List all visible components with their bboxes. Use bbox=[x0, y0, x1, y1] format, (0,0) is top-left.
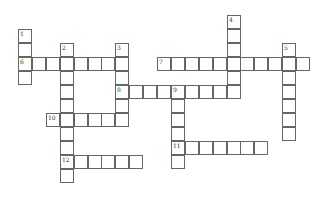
crossword-cell[interactable] bbox=[171, 57, 185, 71]
clue-number: 11 bbox=[173, 142, 181, 149]
crossword-cell[interactable] bbox=[213, 57, 227, 71]
crossword-cell[interactable] bbox=[74, 57, 88, 71]
crossword-cell[interactable] bbox=[60, 169, 74, 183]
clue-number: 2 bbox=[62, 44, 66, 51]
crossword-cell[interactable]: 5 bbox=[282, 43, 296, 57]
crossword-cell[interactable] bbox=[171, 127, 185, 141]
crossword-cell[interactable] bbox=[129, 155, 143, 169]
crossword-cell[interactable] bbox=[115, 155, 129, 169]
crossword-cell[interactable] bbox=[101, 113, 115, 127]
crossword-cell[interactable]: 4 bbox=[227, 15, 241, 29]
clue-number: 8 bbox=[117, 86, 121, 93]
crossword-cell[interactable]: 1 bbox=[18, 29, 32, 43]
clue-number: 7 bbox=[159, 58, 163, 65]
crossword-cell[interactable] bbox=[115, 71, 129, 85]
crossword-cell[interactable] bbox=[296, 57, 310, 71]
crossword-cell[interactable] bbox=[74, 113, 88, 127]
crossword-cell[interactable] bbox=[227, 71, 241, 85]
crossword-cell[interactable]: 7 bbox=[157, 57, 171, 71]
crossword-cell[interactable] bbox=[268, 57, 282, 71]
clue-number: 5 bbox=[284, 44, 288, 51]
crossword-cell[interactable] bbox=[46, 57, 60, 71]
crossword-grid: 162123845791110 bbox=[0, 0, 326, 201]
clue-number: 3 bbox=[117, 44, 121, 51]
crossword-cell[interactable] bbox=[60, 99, 74, 113]
crossword-cell[interactable]: 11 bbox=[171, 141, 185, 155]
clue-number: 12 bbox=[62, 156, 70, 163]
crossword-cell[interactable] bbox=[101, 155, 115, 169]
crossword-cell[interactable]: 2 bbox=[60, 43, 74, 57]
clue-number: 1 bbox=[20, 30, 24, 37]
crossword-cell[interactable] bbox=[185, 141, 199, 155]
crossword-cell[interactable] bbox=[282, 71, 296, 85]
crossword-cell[interactable] bbox=[115, 57, 129, 71]
crossword-cell[interactable] bbox=[282, 127, 296, 141]
crossword-cell[interactable]: 10 bbox=[46, 113, 60, 127]
crossword-cell[interactable]: 12 bbox=[60, 155, 74, 169]
crossword-cell[interactable] bbox=[282, 85, 296, 99]
crossword-cell[interactable] bbox=[185, 85, 199, 99]
crossword-cell[interactable] bbox=[88, 57, 102, 71]
crossword-cell[interactable] bbox=[18, 71, 32, 85]
crossword-cell[interactable] bbox=[282, 113, 296, 127]
clue-number: 10 bbox=[48, 114, 56, 121]
crossword-cell[interactable] bbox=[254, 141, 268, 155]
crossword-cell[interactable] bbox=[171, 155, 185, 169]
crossword-cell[interactable] bbox=[60, 113, 74, 127]
crossword-cell[interactable] bbox=[227, 57, 241, 71]
crossword-cell[interactable] bbox=[227, 141, 241, 155]
crossword-cell[interactable] bbox=[282, 57, 296, 71]
crossword-cell[interactable] bbox=[60, 127, 74, 141]
crossword-cell[interactable] bbox=[185, 57, 199, 71]
crossword-cell[interactable]: 6 bbox=[18, 57, 32, 71]
clue-number: 9 bbox=[173, 86, 177, 93]
crossword-cell[interactable] bbox=[88, 155, 102, 169]
crossword-cell[interactable] bbox=[143, 85, 157, 99]
crossword-cell[interactable] bbox=[60, 141, 74, 155]
crossword-cell[interactable] bbox=[60, 71, 74, 85]
crossword-cell[interactable] bbox=[199, 141, 213, 155]
crossword-cell[interactable]: 3 bbox=[115, 43, 129, 57]
crossword-cell[interactable] bbox=[101, 57, 115, 71]
crossword-cell[interactable] bbox=[88, 113, 102, 127]
crossword-cell[interactable] bbox=[254, 57, 268, 71]
crossword-cell[interactable] bbox=[74, 155, 88, 169]
crossword-cell[interactable] bbox=[213, 85, 227, 99]
crossword-cell[interactable] bbox=[227, 43, 241, 57]
crossword-cell[interactable] bbox=[60, 57, 74, 71]
crossword-cell[interactable] bbox=[213, 141, 227, 155]
crossword-cell[interactable]: 9 bbox=[171, 85, 185, 99]
crossword-cell[interactable] bbox=[240, 141, 254, 155]
crossword-cell[interactable]: 8 bbox=[115, 85, 129, 99]
crossword-cell[interactable] bbox=[115, 99, 129, 113]
crossword-cell[interactable] bbox=[129, 85, 143, 99]
crossword-cell[interactable] bbox=[60, 85, 74, 99]
crossword-cell[interactable] bbox=[171, 113, 185, 127]
clue-number: 4 bbox=[229, 16, 233, 23]
crossword-cell[interactable] bbox=[18, 43, 32, 57]
crossword-cell[interactable] bbox=[32, 57, 46, 71]
crossword-cell[interactable] bbox=[282, 99, 296, 113]
crossword-cell[interactable] bbox=[240, 57, 254, 71]
crossword-cell[interactable] bbox=[199, 85, 213, 99]
clue-number: 6 bbox=[20, 58, 24, 65]
crossword-cell[interactable] bbox=[227, 85, 241, 99]
crossword-cell[interactable] bbox=[171, 99, 185, 113]
crossword-cell[interactable] bbox=[115, 113, 129, 127]
crossword-cell[interactable] bbox=[199, 57, 213, 71]
crossword-cell[interactable] bbox=[157, 85, 171, 99]
crossword-cell[interactable] bbox=[227, 29, 241, 43]
